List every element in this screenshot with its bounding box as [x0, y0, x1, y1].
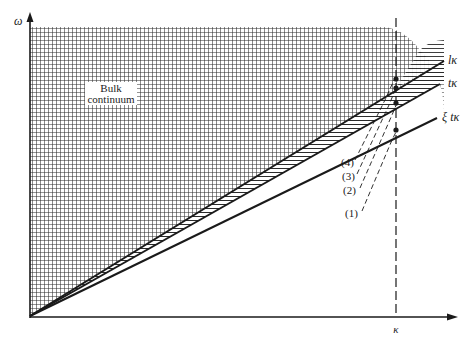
label-branch-1: (1) [345, 207, 358, 220]
dot-xi-t-kappa [393, 127, 398, 132]
label-xi-t-kappa: ξ tκ [442, 110, 459, 124]
label-l-kappa: lκ [448, 53, 457, 67]
label-branch-2: (2) [343, 184, 356, 197]
label-branch-4: (4) [341, 156, 354, 169]
dot-l-kappa [393, 76, 398, 81]
dot-t-kappa [393, 100, 398, 105]
label-t-kappa: tκ [448, 76, 457, 90]
bulk-continuum-region [30, 27, 444, 316]
dispersion-diagram: Bulk continuum lκ tκ ξ tκ (4) (3) (2) (1… [0, 0, 472, 341]
label-branch-3: (3) [342, 170, 355, 183]
y-axis-label: ω [14, 14, 22, 28]
x-axis-arrow-icon [447, 314, 458, 321]
dot-branch-3 [393, 85, 398, 90]
bulk-label-line2: continuum [87, 93, 134, 105]
x-tick-label-kappa: κ [393, 323, 399, 335]
y-axis-arrow-icon [27, 12, 34, 22]
